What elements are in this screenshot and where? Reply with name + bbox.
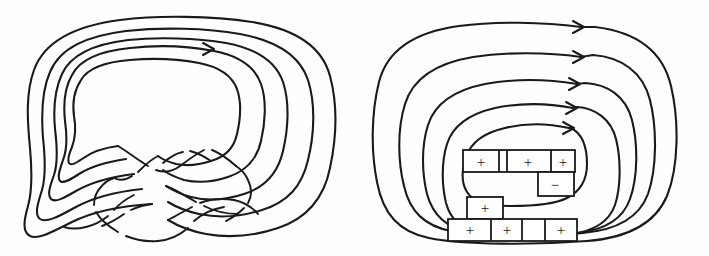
band-group-row-1: + + + bbox=[463, 150, 575, 172]
band-group-row-4: + + + bbox=[448, 219, 577, 241]
seifert-surface-svg: + + + − + + + + bbox=[355, 0, 709, 256]
knot-loop-inner bbox=[59, 46, 265, 182]
band-sign-row4-c: + bbox=[557, 222, 565, 238]
band-group-row-3: + bbox=[467, 197, 503, 219]
knot-diagram-panel bbox=[0, 0, 355, 256]
band-sign-row4-a: + bbox=[466, 222, 474, 238]
knot-loop-outer bbox=[25, 17, 336, 237]
band-sign-row1-c: + bbox=[559, 154, 567, 170]
band-sign-row4-b: + bbox=[503, 222, 511, 238]
knot-diagram-svg bbox=[0, 0, 355, 256]
seifert-circle-1 bbox=[373, 23, 677, 244]
seifert-surface-panel: + + + − + + + + bbox=[355, 0, 709, 256]
band-sign-row2-a: − bbox=[551, 177, 559, 193]
figure-root: + + + − + + + + bbox=[0, 0, 709, 256]
band-sign-row1-a: + bbox=[477, 154, 485, 170]
band-group-row-2: − bbox=[538, 172, 574, 196]
knot-crossings-lower bbox=[64, 180, 258, 241]
knot-loop-third bbox=[49, 38, 287, 200]
band-sign-row3-a: + bbox=[481, 200, 489, 216]
band-sign-row1-b: + bbox=[524, 154, 532, 170]
knot-loop-core bbox=[68, 59, 240, 165]
